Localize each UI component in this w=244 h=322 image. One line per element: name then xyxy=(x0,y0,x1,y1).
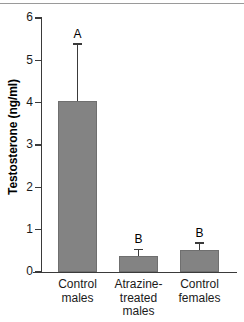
y-tick-6 xyxy=(35,17,41,18)
figure-panel: Testosterone (ng/ml) 6 5 4 3 2 1 0 xyxy=(0,0,244,322)
significance-letter-control-females: B xyxy=(185,227,215,239)
x-axis-line xyxy=(33,272,237,273)
x-category-label-control-females: Control females xyxy=(164,278,236,305)
y-tick-label-3: 3 xyxy=(7,138,33,150)
x-category-label-line: females xyxy=(164,292,236,306)
y-tick-0 xyxy=(35,271,41,272)
y-tick-1 xyxy=(35,229,41,230)
x-category-label-line: Control xyxy=(164,278,236,292)
error-bar-cap-atrazine-treated-males xyxy=(134,249,143,250)
bar-control-females xyxy=(180,250,219,272)
error-bar-cap-control-males xyxy=(73,43,82,44)
significance-letter-control-males: A xyxy=(63,28,93,40)
bar-control-males xyxy=(58,101,97,272)
y-tick-2 xyxy=(35,187,41,188)
y-tick-label-4: 4 xyxy=(7,96,33,108)
y-tick-label-6: 6 xyxy=(7,11,33,23)
y-tick-label-0: 0 xyxy=(7,265,33,277)
error-bar-cap-control-females xyxy=(195,242,204,243)
y-tick-4 xyxy=(35,102,41,103)
y-axis-line xyxy=(41,17,42,273)
y-tick-3 xyxy=(35,144,41,145)
y-tick-label-2: 2 xyxy=(7,181,33,193)
y-tick-label-1: 1 xyxy=(7,223,33,235)
bar-chart: Testosterone (ng/ml) 6 5 4 3 2 1 0 xyxy=(0,0,244,322)
bar-atrazine-treated-males xyxy=(119,256,158,272)
y-tick-label-5: 5 xyxy=(7,54,33,66)
significance-letter-atrazine-treated-males: B xyxy=(124,233,154,245)
error-bar-stem-control-males xyxy=(77,43,78,100)
y-tick-5 xyxy=(35,60,41,61)
x-category-label-line: males xyxy=(103,305,175,319)
